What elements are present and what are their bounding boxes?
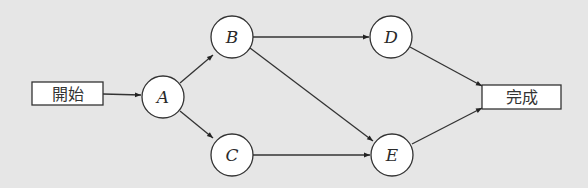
edge-start-a [103, 94, 141, 95]
diagram-canvas: 開始 完成 A B C D E [0, 0, 588, 188]
edge-a-c [180, 111, 213, 138]
end-node: 完成 [482, 85, 561, 109]
node-c-label: C [225, 145, 238, 165]
edge-e-end [412, 108, 482, 144]
start-label: 開始 [52, 85, 84, 104]
node-c: C [211, 134, 253, 176]
edge-a-b [180, 55, 213, 83]
node-d: D [370, 16, 412, 58]
node-e: E [371, 134, 413, 176]
node-a: A [142, 76, 184, 118]
flow-diagram: 開始 完成 A B C D E [0, 0, 588, 188]
edge-b-e [250, 48, 373, 141]
node-d-label: D [383, 27, 398, 47]
node-a-label: A [155, 87, 169, 107]
start-node: 開始 [32, 82, 103, 105]
node-b: B [211, 16, 253, 58]
node-e-label: E [385, 145, 399, 165]
edge-d-end [410, 47, 482, 86]
node-b-label: B [225, 27, 239, 47]
end-label: 完成 [506, 88, 538, 107]
